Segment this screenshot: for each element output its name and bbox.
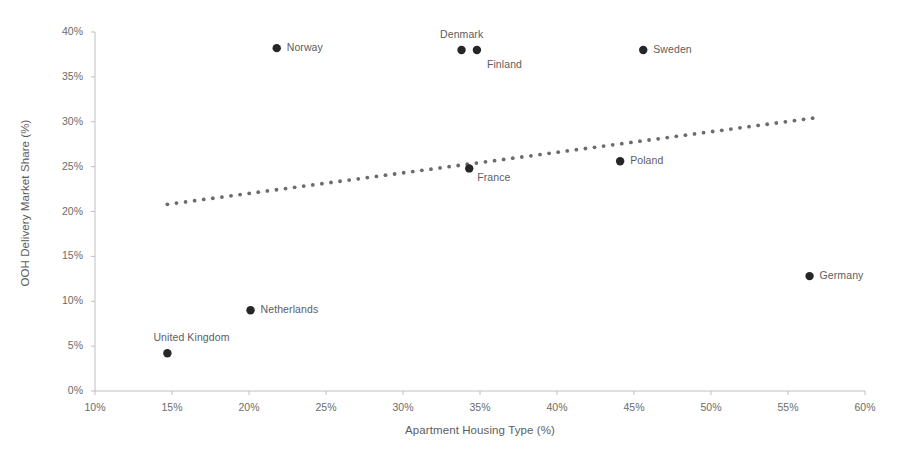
plot-area (0, 0, 911, 458)
data-point-label: Germany (820, 269, 864, 281)
data-point-marker (273, 44, 281, 52)
x-tick-label: 30% (380, 401, 426, 413)
data-point-marker (457, 46, 465, 54)
data-point-marker (639, 46, 647, 54)
y-tick-label: 5% (43, 339, 83, 351)
y-tick-label: 30% (43, 115, 83, 127)
x-tick-label: 10% (72, 401, 118, 413)
y-tick-label: 40% (43, 25, 83, 37)
y-tick-label: 20% (43, 205, 83, 217)
x-tick-label: 45% (611, 401, 657, 413)
data-point-label: Poland (630, 154, 663, 166)
x-tick-label: 15% (149, 401, 195, 413)
x-tick-label: 55% (765, 401, 811, 413)
y-tick-label: 35% (43, 70, 83, 82)
x-tick-label: 50% (688, 401, 734, 413)
y-tick-label: 10% (43, 294, 83, 306)
data-point-marker (246, 306, 254, 314)
x-tick-label: 25% (303, 401, 349, 413)
data-point-marker (473, 46, 481, 54)
data-point-label: France (477, 171, 510, 183)
x-tick-label: 20% (226, 401, 272, 413)
x-tick-label: 35% (457, 401, 503, 413)
data-point-label: Norway (287, 41, 323, 53)
data-point-label: Finland (487, 58, 522, 70)
y-tick-label: 15% (43, 249, 83, 261)
x-tick-label: 40% (534, 401, 580, 413)
data-point-label: Netherlands (261, 303, 319, 315)
data-point-label: Denmark (440, 28, 483, 40)
trendline (165, 116, 814, 206)
data-point-label: Sweden (653, 43, 692, 55)
y-axis-title: OOH Delivery Market Share (%) (19, 33, 41, 373)
data-point-marker (163, 349, 171, 357)
y-tick-label: 0% (43, 384, 83, 396)
data-point-marker (805, 272, 813, 280)
x-axis-title: Apartment Housing Type (%) (95, 424, 865, 436)
scatter-chart: 0%5%10%15%20%25%30%35%40% 10%15%20%25%30… (0, 0, 911, 458)
x-tick-label: 60% (842, 401, 888, 413)
data-point-marker (465, 164, 473, 172)
data-point-marker (616, 157, 624, 165)
data-point-label: United Kingdom (153, 331, 229, 343)
y-tick-label: 25% (43, 160, 83, 172)
